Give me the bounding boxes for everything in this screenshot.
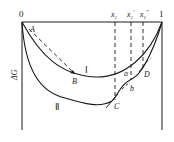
tick-mark-label: ' — [150, 57, 151, 63]
x1pp-label: x1″ — [139, 9, 149, 20]
x1-label: x1 — [110, 10, 117, 20]
point-a-label: a — [124, 69, 128, 78]
axis-label-1: 1 — [159, 9, 164, 19]
axis-label-0: 0 — [19, 9, 24, 19]
curve-II — [22, 22, 162, 105]
point-D-label: D — [143, 70, 150, 79]
tangent-A-B — [29, 29, 75, 74]
y-axis-label: ΔG — [10, 69, 19, 81]
x1p-label: x1′ — [126, 9, 135, 20]
curve-II-label: Ⅱ — [55, 102, 59, 112]
curve-I-label: Ⅰ — [85, 65, 88, 75]
free-energy-diagram: 0 1 ΔG x1 x1′ x1″ Ⅰ Ⅱ A B C D a b ' — [0, 0, 174, 142]
point-b-label: b — [130, 84, 134, 93]
point-B-label: B — [72, 77, 77, 86]
point-C-label: C — [114, 102, 120, 111]
point-A-label: A — [29, 25, 35, 34]
